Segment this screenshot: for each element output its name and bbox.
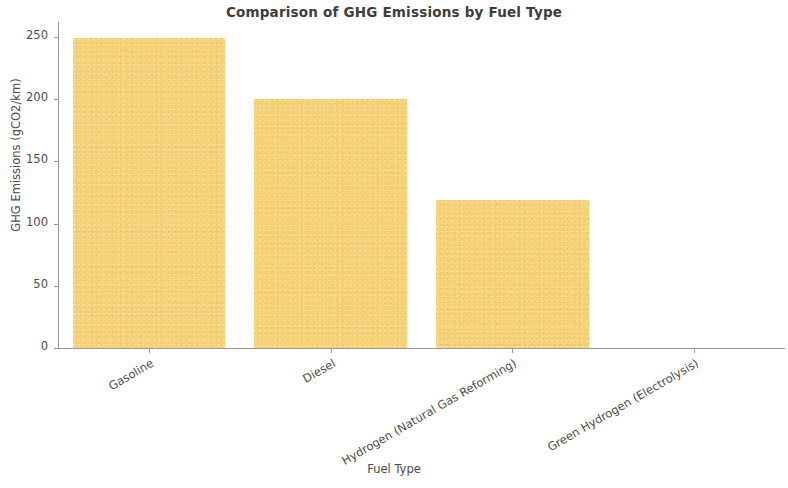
y-tick-label: 0 [0,341,48,353]
x-tick-mark [331,349,332,353]
y-tick-mark [54,348,58,349]
y-tick-label: 100 [0,217,48,229]
x-tick-mark [149,349,150,353]
x-tick-mark [512,349,513,353]
y-tick-label: 50 [0,279,48,291]
y-tick-label: 250 [0,30,48,42]
y-tick-label: 150 [0,154,48,166]
y-axis-title: GHG Emissions (gCO2/km) [9,35,23,275]
plot-area [58,22,785,348]
x-axis-spine [58,348,785,349]
bar [436,200,589,348]
bar [254,99,407,348]
chart-title: Comparison of GHG Emissions by Fuel Type [0,4,788,20]
y-tick-label: 200 [0,92,48,104]
chart-figure: Comparison of GHG Emissions by Fuel Type… [0,0,788,488]
x-tick-mark [694,349,695,353]
x-axis-title: Fuel Type [0,462,788,476]
bar [73,38,226,348]
